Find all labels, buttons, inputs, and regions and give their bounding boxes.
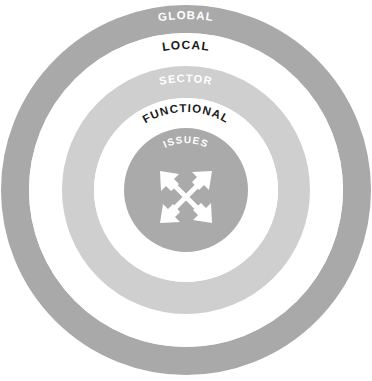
concentric-rings-diagram: GLOBAL LOCAL SECTOR FUNCTIONAL ISSUES (0, 0, 372, 381)
rings-canvas: GLOBAL LOCAL SECTOR FUNCTIONAL ISSUES (0, 0, 372, 381)
ring-issues-shape (124, 128, 248, 252)
ring-label-local: LOCAL (161, 38, 211, 54)
ring-label-local-textpath: LOCAL (161, 38, 211, 54)
